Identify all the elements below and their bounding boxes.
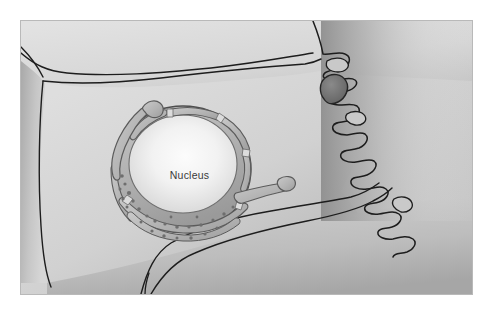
ribosome-dot [127, 191, 131, 195]
ribosome-dot [131, 199, 134, 202]
membrane-ruffle-pocket-upper [326, 58, 348, 72]
ribosome-dot [137, 207, 141, 211]
ribosome-dot [189, 236, 192, 239]
ribosome-dot [120, 174, 124, 178]
ribosome-dot [145, 214, 148, 217]
ribosome-dot [187, 225, 190, 228]
nucleoplasm [129, 115, 237, 213]
ribosome-dot [216, 227, 219, 230]
ribosome-dot [222, 212, 225, 215]
er-tubule-right-bulb [277, 177, 295, 192]
figure-root: Nucleus [0, 0, 495, 317]
ribosome-dot [199, 223, 202, 226]
ribosome-dot [196, 216, 199, 219]
ribosome-dot [150, 229, 153, 232]
ribosome-dot [162, 234, 165, 237]
ribosome-dot [153, 219, 156, 222]
ribosome-dot [126, 206, 129, 209]
illustration-frame: Nucleus [20, 20, 473, 295]
cell-illustration [21, 21, 472, 294]
ribosome-dot [211, 218, 214, 221]
ribosome-dot [140, 221, 143, 224]
ribosome-dot [170, 216, 173, 219]
ribosome-dot [176, 237, 179, 240]
nuclear-pore-right [242, 149, 250, 157]
ribosome-dot [119, 188, 122, 191]
membrane-ruffle-pocket-lower [346, 112, 366, 126]
nuclear-pore-top [167, 109, 173, 117]
ribosome-dot [203, 232, 206, 235]
ribosome-dot [163, 222, 166, 225]
ribosome-dot [232, 206, 235, 209]
ribosome-dot [121, 197, 124, 200]
ribosome-dot [175, 225, 179, 229]
ribosome-dot [123, 182, 126, 185]
